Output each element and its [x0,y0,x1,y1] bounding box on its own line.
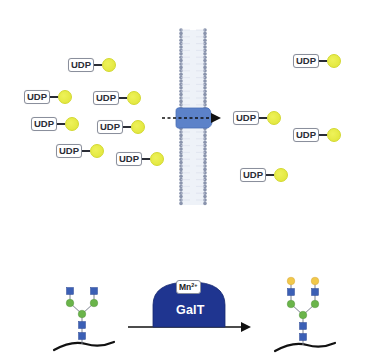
mannose-icon [299,311,307,319]
cofactor-label: Mn [179,282,191,292]
mannose-icon [66,299,74,307]
glcnac-icon [312,289,319,296]
mannose-icon [90,299,98,307]
substrate-glycan [54,288,114,351]
mannose-icon [78,310,86,318]
glcnac-icon [91,288,98,295]
cofactor-badge: Mn2+ [176,280,201,294]
mannose-icon [311,300,319,308]
glcnac-icon [79,322,86,329]
galactose-icon [311,277,319,285]
product-glycan [275,277,335,351]
galactose-icon [287,277,295,285]
glcnac-icon [79,333,86,340]
glcnac-icon [288,289,295,296]
enzyme-label: GalT [176,303,205,317]
glcnac-icon [300,334,307,341]
mannose-icon [287,300,295,308]
glcnac-icon [300,323,307,330]
cofactor-charge: 2+ [191,282,197,288]
glcnac-icon [67,288,74,295]
